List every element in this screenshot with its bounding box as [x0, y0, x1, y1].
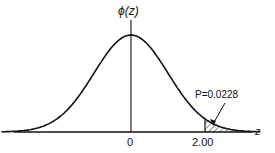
x-axis-label: z: [254, 125, 261, 137]
probability-annotation: P=0.0228: [195, 89, 239, 100]
y-axis-label: ϕ(z): [118, 4, 139, 18]
x-tick-0: 0: [127, 136, 133, 148]
normal-distribution-chart: ϕ(z) z 0 2.00 P=0.0228: [0, 0, 275, 153]
x-tick-2: 2.00: [192, 136, 213, 148]
